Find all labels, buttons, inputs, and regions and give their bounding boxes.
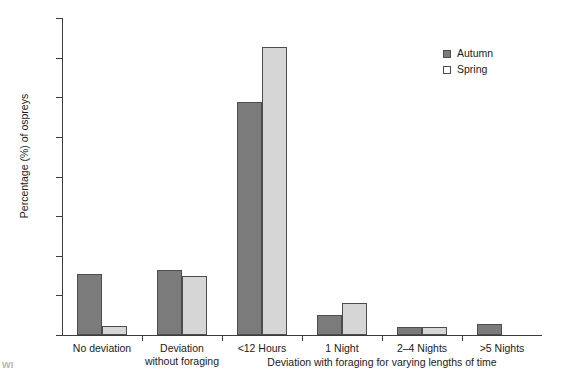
y-tick-40 <box>56 177 62 178</box>
bar-spring-2 <box>262 47 287 335</box>
bar-spring-3 <box>342 303 367 335</box>
caption-strip: wi <box>0 362 565 380</box>
bar-autumn-5 <box>477 324 502 335</box>
osprey-deviation-bar-chart: Percentage (%) of ospreys 80706050403020… <box>0 0 565 380</box>
y-tick-20 <box>56 256 62 257</box>
legend-label-autumn: Autumn <box>457 48 493 59</box>
y-tick-50 <box>56 137 62 138</box>
spring-swatch-icon <box>443 66 451 74</box>
y-tick-0 <box>56 335 62 336</box>
bar-spring-4 <box>422 327 447 335</box>
x-tick-3 <box>302 335 303 341</box>
x-tick-4 <box>382 335 383 341</box>
y-tick-30 <box>56 216 62 217</box>
category-label-5: >5 Nights <box>450 342 554 355</box>
y-tick-80 <box>56 18 62 19</box>
x-tick-1 <box>142 335 143 341</box>
y-tick-60 <box>56 97 62 98</box>
x-tick-5 <box>462 335 463 341</box>
bar-autumn-4 <box>397 327 422 335</box>
chart-legend: Autumn Spring <box>443 47 493 79</box>
y-tick-10 <box>56 295 62 296</box>
bar-autumn-3 <box>317 315 342 335</box>
y-tick-70 <box>56 58 62 59</box>
legend-label-spring: Spring <box>457 64 487 75</box>
legend-item-autumn: Autumn <box>443 47 493 60</box>
y-axis-line <box>62 18 63 335</box>
bar-autumn-1 <box>157 270 182 335</box>
bar-autumn-0 <box>77 274 102 335</box>
x-tick-2 <box>222 335 223 341</box>
bar-spring-1 <box>182 276 207 335</box>
bar-autumn-2 <box>237 102 262 335</box>
legend-item-spring: Spring <box>443 63 493 76</box>
caption-partial-text: wi <box>2 362 14 370</box>
y-axis-title: Percentage (%) of ospreys <box>18 66 30 246</box>
bar-spring-0 <box>102 326 127 335</box>
autumn-swatch-icon <box>443 50 451 58</box>
